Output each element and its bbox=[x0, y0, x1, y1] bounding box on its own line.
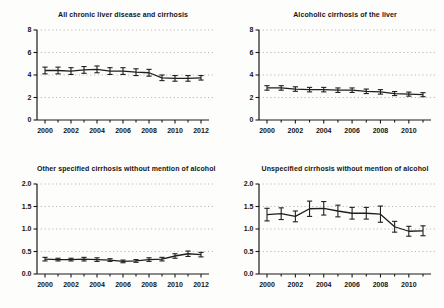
chart-title: Unspecified cirrhosis without mention of… bbox=[222, 154, 444, 176]
svg-text:2006: 2006 bbox=[344, 127, 360, 134]
svg-text:2008: 2008 bbox=[373, 281, 389, 288]
chart-alcoholic-cirrhosis: Alcoholic cirrhosis of the liver 0246820… bbox=[222, 0, 444, 154]
svg-text:2002: 2002 bbox=[288, 281, 304, 288]
svg-text:2006: 2006 bbox=[344, 281, 360, 288]
chart-all-chronic-liver-disease: All chronic liver disease and cirrhosis … bbox=[0, 0, 222, 154]
svg-text:8: 8 bbox=[250, 26, 254, 33]
svg-text:2000: 2000 bbox=[37, 281, 53, 288]
svg-text:2000: 2000 bbox=[259, 281, 275, 288]
chart-unspecified-cirrhosis: Unspecified cirrhosis without mention of… bbox=[222, 154, 444, 308]
svg-text:2006: 2006 bbox=[115, 127, 131, 134]
liver-disease-figure: All chronic liver disease and cirrhosis … bbox=[0, 0, 444, 308]
svg-text:1.5: 1.5 bbox=[244, 203, 254, 210]
svg-text:1.0: 1.0 bbox=[22, 225, 32, 232]
svg-text:2010: 2010 bbox=[167, 127, 183, 134]
svg-text:2010: 2010 bbox=[401, 281, 417, 288]
chart-canvas: 0.00.51.01.52.02000200220042006200820102… bbox=[0, 176, 222, 306]
svg-text:2: 2 bbox=[28, 94, 32, 101]
svg-text:0.5: 0.5 bbox=[22, 248, 32, 255]
svg-text:2000: 2000 bbox=[37, 127, 53, 134]
svg-text:2008: 2008 bbox=[373, 127, 389, 134]
svg-text:2002: 2002 bbox=[63, 281, 79, 288]
svg-text:0: 0 bbox=[250, 116, 254, 123]
svg-text:2000: 2000 bbox=[259, 127, 275, 134]
svg-text:2012: 2012 bbox=[193, 281, 209, 288]
svg-text:6: 6 bbox=[28, 49, 32, 56]
svg-text:0.5: 0.5 bbox=[244, 248, 254, 255]
svg-text:2012: 2012 bbox=[193, 127, 209, 134]
svg-text:0.0: 0.0 bbox=[244, 270, 254, 277]
svg-text:4: 4 bbox=[250, 71, 254, 78]
svg-text:2002: 2002 bbox=[63, 127, 79, 134]
svg-text:8: 8 bbox=[28, 26, 32, 33]
svg-text:6: 6 bbox=[250, 49, 254, 56]
chart-other-specified-cirrhosis: Other specified cirrhosis without mentio… bbox=[0, 154, 222, 308]
svg-text:2010: 2010 bbox=[167, 281, 183, 288]
chart-canvas: 024682000200220042006200820102012 bbox=[0, 22, 222, 152]
chart-canvas: 02468200020022004200620082010 bbox=[222, 22, 444, 152]
svg-text:0.0: 0.0 bbox=[22, 270, 32, 277]
chart-title: Other specified cirrhosis without mentio… bbox=[0, 154, 222, 176]
svg-text:2008: 2008 bbox=[141, 127, 157, 134]
svg-text:2: 2 bbox=[250, 94, 254, 101]
svg-text:2004: 2004 bbox=[89, 281, 105, 288]
svg-text:2.0: 2.0 bbox=[22, 180, 32, 187]
svg-text:2010: 2010 bbox=[401, 127, 417, 134]
svg-text:2004: 2004 bbox=[316, 127, 332, 134]
svg-text:2004: 2004 bbox=[316, 281, 332, 288]
chart-title: All chronic liver disease and cirrhosis bbox=[0, 0, 222, 22]
svg-text:2004: 2004 bbox=[89, 127, 105, 134]
svg-text:2002: 2002 bbox=[288, 127, 304, 134]
svg-text:0: 0 bbox=[28, 116, 32, 123]
svg-text:4: 4 bbox=[28, 71, 32, 78]
svg-text:2.0: 2.0 bbox=[244, 180, 254, 187]
svg-text:2006: 2006 bbox=[115, 281, 131, 288]
svg-text:1.0: 1.0 bbox=[244, 225, 254, 232]
svg-text:2008: 2008 bbox=[141, 281, 157, 288]
chart-canvas: 0.00.51.01.52.0200020022004200620082010 bbox=[222, 176, 444, 306]
chart-title: Alcoholic cirrhosis of the liver bbox=[222, 0, 444, 22]
svg-text:1.5: 1.5 bbox=[22, 203, 32, 210]
